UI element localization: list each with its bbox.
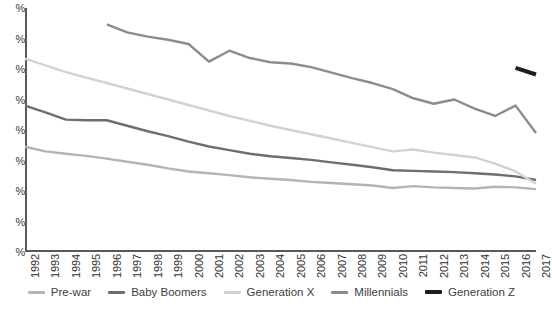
plot-area — [25, 8, 536, 252]
x-axis-tick: 2008 — [356, 254, 368, 278]
legend-label: Millennials — [354, 286, 408, 298]
y-axis-tick-labels: %%%%%%%%% — [0, 0, 26, 252]
legend-item[interactable]: Generation X — [224, 286, 315, 298]
y-axis-tick: % — [15, 33, 25, 45]
legend-item[interactable]: Baby Boomers — [108, 286, 206, 298]
chart-legend: Pre-warBaby BoomersGeneration XMillennia… — [0, 286, 543, 298]
x-axis-tick: 1999 — [172, 254, 184, 278]
y-axis-tick: % — [15, 63, 25, 75]
x-axis-tick: 2003 — [254, 254, 266, 278]
y-axis-tick: % — [15, 185, 25, 197]
legend-label: Generation Z — [448, 286, 515, 298]
series-line — [516, 68, 536, 75]
x-axis-tick: 2016 — [520, 254, 532, 278]
x-axis-tick: 2013 — [458, 254, 470, 278]
x-axis-tick: 1995 — [90, 254, 102, 278]
x-axis-tick: 2010 — [397, 254, 409, 278]
x-axis-tick: 2000 — [193, 254, 205, 278]
y-axis-tick: % — [15, 2, 25, 14]
series-lines — [25, 8, 536, 252]
x-axis-tick: 2014 — [479, 254, 491, 278]
legend-label: Generation X — [247, 286, 315, 298]
series-line — [25, 106, 536, 180]
x-axis-tick: 2001 — [213, 254, 225, 278]
legend-item[interactable]: Millennials — [331, 286, 408, 298]
x-axis-tick: 2015 — [499, 254, 511, 278]
series-line — [25, 147, 536, 189]
y-axis-tick: % — [15, 94, 25, 106]
x-axis-tick: 1998 — [152, 254, 164, 278]
x-axis-tick: 1996 — [111, 254, 123, 278]
x-axis-tick: 2011 — [417, 254, 429, 277]
y-axis-tick: % — [15, 216, 25, 228]
x-axis-tick: 2005 — [295, 254, 307, 278]
x-axis-tick: 1992 — [29, 254, 41, 278]
x-axis-tick: 2006 — [315, 254, 327, 278]
legend-item[interactable]: Pre-war — [28, 286, 91, 298]
x-axis-tick: 2007 — [336, 254, 348, 278]
legend-swatch-icon — [224, 291, 241, 294]
legend-swatch-icon — [28, 291, 45, 294]
y-axis-tick: % — [15, 124, 25, 136]
x-axis-tick: 2009 — [376, 254, 388, 278]
legend-label: Pre-war — [51, 286, 91, 298]
x-axis-tick: 2012 — [438, 254, 450, 278]
x-axis-tick: 1997 — [131, 254, 143, 278]
x-axis-tick: 1994 — [70, 254, 82, 278]
legend-label: Baby Boomers — [131, 286, 206, 298]
y-axis-tick: % — [15, 246, 25, 258]
legend-swatch-icon — [331, 291, 348, 294]
x-axis-tick: 2002 — [233, 254, 245, 278]
legend-item[interactable]: Generation Z — [425, 286, 515, 298]
x-axis-tick: 2004 — [274, 254, 286, 278]
legend-swatch-icon — [425, 290, 442, 294]
legend-swatch-icon — [108, 291, 125, 294]
x-axis-tick: 2017 — [540, 254, 552, 278]
x-axis-tick: 1993 — [49, 254, 61, 278]
y-axis-tick: % — [15, 155, 25, 167]
series-line — [107, 24, 536, 133]
